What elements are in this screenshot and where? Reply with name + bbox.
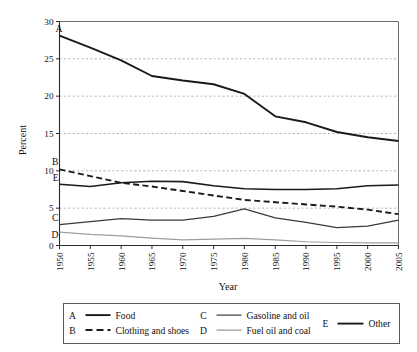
x-tick-label-2005: 2005 [394, 252, 404, 271]
chart-legend: AFoodBClothing and shoesCGasoline and oi… [64, 304, 400, 344]
y-tick-label-25: 25 [44, 54, 54, 64]
legend-label-d: Fuel oil and coal [247, 325, 312, 336]
legend-key-e: E [323, 318, 329, 329]
series-inline-label-c: C [52, 212, 58, 223]
x-tick-label-1960: 1960 [117, 252, 127, 271]
x-tick-label-1965: 1965 [147, 252, 157, 271]
x-tick-label-1975: 1975 [209, 252, 219, 271]
legend-key-c: C [200, 310, 206, 321]
y-tick-label-0: 0 [49, 241, 54, 251]
x-tick-label-1955: 1955 [86, 252, 96, 271]
series-inline-label-b: B [52, 156, 58, 167]
x-tick-label-1970: 1970 [178, 252, 188, 271]
x-tick-label-1980: 1980 [240, 252, 250, 271]
y-tick-label-15: 15 [44, 129, 54, 139]
x-tick-label-1990: 1990 [301, 252, 311, 271]
series-inline-label-e: E [53, 172, 59, 183]
y-tick-label-30: 30 [44, 17, 54, 27]
legend-key-a: A [69, 310, 76, 321]
legend-label-b: Clothing and shoes [116, 325, 190, 336]
x-tick-label-1950: 1950 [55, 252, 65, 271]
chart-figure: 051015202530 195019551960196519701975198… [0, 0, 417, 352]
x-tick-label-1995: 1995 [332, 252, 342, 271]
x-tick-label-1985: 1985 [271, 252, 281, 271]
legend-label-e: Other [369, 318, 392, 329]
y-tick-label-20: 20 [44, 91, 54, 101]
x-tick-label-2000: 2000 [363, 252, 373, 271]
chart-background [0, 0, 417, 352]
series-inline-label-a: A [56, 23, 63, 34]
legend-label-a: Food [116, 310, 136, 321]
series-inline-label-d: D [52, 229, 59, 240]
expenditure-share-line-chart: 051015202530 195019551960196519701975198… [0, 0, 417, 352]
y-axis-title: Percent [17, 125, 28, 155]
legend-label-c: Gasoline and oil [247, 310, 310, 321]
legend-key-d: D [200, 325, 207, 336]
legend-key-b: B [69, 325, 75, 336]
x-axis-title: Year [219, 281, 238, 292]
